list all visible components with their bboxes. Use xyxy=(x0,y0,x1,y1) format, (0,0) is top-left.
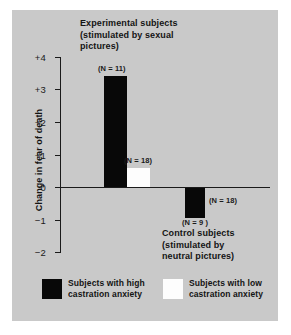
zero-baseline xyxy=(60,187,270,188)
legend-label-low-anxiety: Subjects with low castration anxiety xyxy=(189,278,263,299)
bar-experimental-low-anxiety xyxy=(127,168,150,187)
legend-swatch-white xyxy=(163,279,183,299)
y-tick-mark-2 xyxy=(55,122,61,123)
y-tick-mark-3 xyxy=(55,89,61,90)
figure-root: +4 +3 +2 +1 0 −1 −2 Change in fear of de… xyxy=(0,0,291,335)
legend-item-high-anxiety: Subjects with high castration anxiety xyxy=(42,278,145,299)
plot-area: +4 +3 +2 +1 0 −1 −2 Change in fear of de… xyxy=(12,10,278,321)
y-tick-mark-0 xyxy=(55,187,61,188)
y-tick-label-4: +4 xyxy=(35,52,46,63)
legend-swatch-black xyxy=(42,279,62,299)
caption-experimental-group: Experimental subjects (stimulated by sex… xyxy=(80,18,178,53)
y-axis-title: Change in fear of death xyxy=(34,85,44,235)
y-tick-mark-neg2 xyxy=(55,252,61,253)
y-tick-mark-neg1 xyxy=(55,220,61,221)
legend: Subjects with high castration anxiety Su… xyxy=(42,278,274,299)
chart-plate: +4 +3 +2 +1 0 −1 −2 Change in fear of de… xyxy=(12,10,278,321)
y-tick-mark-1 xyxy=(55,155,61,156)
bar-experimental-high-anxiety xyxy=(104,76,127,187)
y-tick-mark-4 xyxy=(55,57,61,58)
bar-control-high-anxiety xyxy=(185,188,205,218)
y-tick-label-neg2: −2 xyxy=(35,247,46,258)
n-label-control-high: (N = 9 ) xyxy=(182,218,208,227)
n-label-experimental-high: (N = 11) xyxy=(98,64,126,73)
n-label-experimental-low: (N = 18) xyxy=(124,156,152,165)
legend-item-low-anxiety: Subjects with low castration anxiety xyxy=(163,278,263,299)
n-label-control-low: (N = 18) xyxy=(209,196,237,205)
legend-label-high-anxiety: Subjects with high castration anxiety xyxy=(68,278,145,299)
caption-control-group: Control subjects (stimulated by neutral … xyxy=(162,228,235,263)
